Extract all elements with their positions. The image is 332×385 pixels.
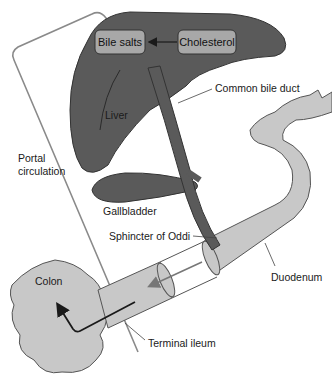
gallbladder-label: Gallbladder: [103, 205, 157, 217]
cholesterol-label: Cholesterol: [179, 36, 235, 48]
common-bile-duct-label: Common bile duct: [215, 82, 300, 94]
bile-salts-label: Bile salts: [98, 36, 143, 48]
liver-label: Liver: [105, 109, 128, 121]
duodenum-label: Duodenum: [271, 271, 323, 283]
colon-label: Colon: [35, 275, 63, 287]
enterohepatic-circulation-diagram: Bile salts Cholesterol Liver Common bile…: [0, 0, 332, 385]
duodenum-shape: [204, 90, 332, 272]
portal-circulation-label-1: Portal: [18, 152, 45, 164]
sphincter-label: Sphincter of Oddi: [109, 230, 190, 242]
portal-circulation-label-2: circulation: [18, 165, 65, 177]
terminal-ileum-label: Terminal ileum: [148, 337, 216, 349]
common-bile-duct: [148, 66, 220, 250]
